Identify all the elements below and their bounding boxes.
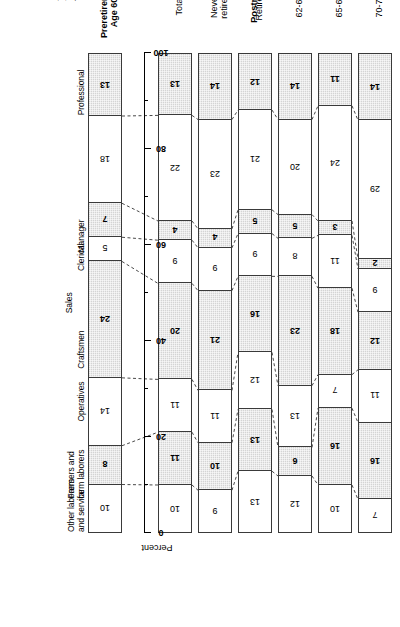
axis-tick-major (144, 340, 151, 341)
bar-segment-value: 5 (102, 244, 107, 254)
bar-segment: 2 (358, 259, 392, 269)
bar-segment-value: 14 (290, 81, 300, 91)
bar-segment: 18 (88, 116, 122, 203)
bar-segment-value: 9 (372, 285, 377, 295)
bar-segment: 21 (238, 110, 272, 210)
bar-segment-value: 5 (252, 216, 257, 226)
figure-caption-number: Figure 8–2. (55, 0, 69, 1)
bar-segment: 5 (238, 210, 272, 234)
bar-segment: 24 (88, 262, 122, 378)
bar-segment-value: 16 (370, 456, 380, 466)
bar-segment: 12 (238, 352, 272, 409)
bar-segment: 8 (278, 238, 312, 276)
bar-segment: 4 (198, 229, 232, 248)
axis-line (144, 53, 145, 533)
bar-segment: 10 (88, 485, 122, 533)
bar-segment-value: 14 (210, 81, 220, 91)
bar-segment-value: 20 (170, 326, 180, 336)
bar-segment-value: 23 (210, 169, 220, 179)
bar-segment-value: 24 (100, 314, 110, 324)
group-label: 70-74 (362, 0, 396, 43)
bar-segment-value: 7 (332, 386, 337, 396)
axis-tick-major (144, 436, 151, 437)
chart-plot-area: Other laborers and serviceFarmers and fa… (0, 0, 400, 627)
axis-tick-label: 100 (151, 48, 171, 58)
bar-segment-value: 12 (250, 77, 260, 87)
axis-tick-major (144, 532, 151, 533)
bar-segment-value: 18 (330, 326, 340, 336)
bar-segment: 11 (158, 379, 192, 432)
bar-segment-value: 12 (250, 375, 260, 385)
bar-segment: 4 (158, 221, 192, 240)
bar-segment-value: 10 (330, 504, 340, 514)
connector-line (122, 203, 158, 221)
bar-segment-value: 12 (370, 336, 380, 346)
bar-segment: 29 (358, 120, 392, 259)
group-label: 62-64 (282, 0, 316, 43)
bar-segment-value: 13 (170, 79, 180, 89)
bar-segment-value: 14 (100, 406, 110, 416)
axis-tick-label: 40 (151, 336, 171, 346)
bar-segment-value: 3 (332, 223, 337, 233)
bar-segment: 9 (198, 248, 232, 291)
bar-segment: 14 (88, 378, 122, 446)
bar-segment-value: 2 (372, 259, 377, 269)
postretirement-header: Postretirement - Age 62-74 (248, 0, 259, 23)
axis-tick-minor (144, 388, 148, 389)
bar-segment: 14 (358, 53, 392, 120)
bar-segment: 16 (318, 408, 352, 485)
bar-segment-value: 29 (370, 184, 380, 194)
axis-tick-label: 80 (151, 144, 171, 154)
bar-segment-value: 11 (330, 256, 339, 266)
group-label: 65-69 (322, 0, 356, 43)
connector-line (122, 261, 158, 283)
axis-tick-major (144, 244, 151, 245)
bar-segment-value: 21 (210, 335, 220, 345)
bar-segment: 23 (198, 120, 232, 229)
bar-segment: 16 (358, 423, 392, 500)
bar-segment-value: 22 (170, 163, 180, 173)
bar-segment-value: 13 (250, 435, 260, 445)
bar-segment: 14 (278, 53, 312, 120)
bar-segment: 6 (278, 447, 312, 476)
bar-segment-value: 11 (170, 400, 179, 410)
bar-group: 9101121942314 (198, 53, 232, 533)
bar-segment-value: 11 (370, 391, 379, 401)
bar-segment-value: 5 (292, 221, 297, 231)
bar-segment-value: 9 (172, 256, 177, 266)
bar-segment-value: 21 (250, 154, 260, 164)
category-label: Farmers and farm laborers (67, 450, 86, 499)
bar-group: 1081424571813 (88, 53, 122, 533)
figure-caption: Figure 8–2. Occupational Distribution of… (54, 0, 88, 1)
bar-segment: 11 (358, 370, 392, 423)
category-labels: Other laborers and serviceFarmers and fa… (8, 53, 86, 533)
category-label: Craftsmen (77, 331, 87, 369)
bar-segment: 14 (198, 53, 232, 120)
bar-segment-value: 9 (252, 250, 257, 260)
category-label: Manager (77, 220, 87, 253)
bar-segment: 3 (318, 221, 352, 235)
category-label: Professional (77, 70, 87, 116)
bar-segment: 9 (358, 269, 392, 312)
bar-segment: 13 (88, 53, 122, 116)
bar-segment-value: 7 (372, 511, 377, 521)
axis-tick-label: 20 (151, 432, 171, 442)
bar-segment: 20 (158, 283, 192, 379)
axis-tick-minor (144, 484, 148, 485)
bar-segment: 23 (278, 276, 312, 385)
group-label: Never retired (202, 0, 236, 43)
bar-segment-value: 11 (170, 453, 180, 463)
axis-tick-label: 0 (151, 528, 171, 538)
bar-group: 13131216952112 (238, 53, 272, 533)
bar-segment-value: 13 (250, 497, 260, 507)
axis-tick-minor (144, 292, 148, 293)
group-label: Total (162, 0, 196, 43)
bar-segment-value: 10 (210, 461, 220, 471)
bar-segment-value: 18 (100, 154, 110, 164)
axis-tick-minor (144, 100, 148, 101)
bar-segment-value: 10 (170, 504, 180, 514)
bar-segment-value: 23 (290, 326, 300, 336)
bar-segment: 10 (198, 443, 232, 491)
bar-segment-value: 11 (210, 411, 219, 421)
axis-tick-label: 60 (151, 240, 171, 250)
